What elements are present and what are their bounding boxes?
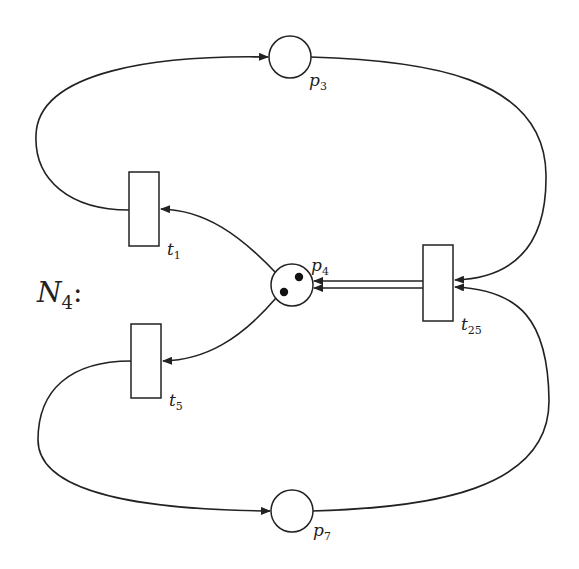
place-p3: p3 [269,36,327,93]
net-name-label: N4: [36,276,82,313]
place-p7: p7 [271,490,331,543]
transition-label: t5 [169,390,183,413]
transition-box [131,324,161,398]
arc-p4-t5 [163,298,276,361]
petri-net-diagram: p3 p4 p7 t1 t5 t25 N4: [0,0,579,569]
token [295,273,303,281]
transition-box [129,172,159,246]
token [280,288,288,296]
place-label: p4 [311,255,329,278]
place-circle [271,264,313,306]
transition-label: t25 [461,314,482,337]
transition-t5: t5 [131,324,183,413]
transition-t25: t25 [423,245,482,337]
place-label: p7 [313,520,331,543]
transition-box [423,245,453,321]
place-label: p3 [309,70,327,93]
transition-label: t1 [167,239,181,262]
arc-p4-t1 [161,209,276,273]
place-circle [269,36,311,78]
transition-t1: t1 [129,172,181,262]
place-circle [271,490,313,532]
